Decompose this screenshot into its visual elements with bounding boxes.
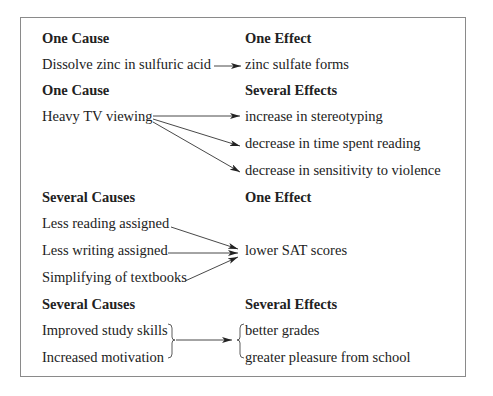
right-brace-icon bbox=[168, 324, 175, 358]
arrows-layer bbox=[0, 0, 493, 396]
arrow-icon bbox=[153, 119, 240, 146]
arrow-icon bbox=[153, 122, 240, 172]
arrow-icon bbox=[171, 227, 238, 249]
arrow-icon bbox=[185, 257, 238, 281]
left-brace-icon bbox=[237, 324, 244, 358]
